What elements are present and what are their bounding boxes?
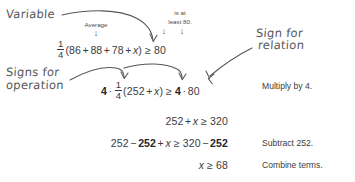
plus-sign-1: + <box>81 44 90 56</box>
relation-sign: ≥ <box>204 159 216 171</box>
value-80: 80 <box>188 85 200 97</box>
plus-sign-3: + <box>124 44 133 56</box>
score-86: 86 <box>69 44 81 56</box>
plus-sign: + <box>156 137 165 149</box>
arrowhead-relation-tail <box>206 71 210 78</box>
subtract-252-left: 252 <box>138 137 156 149</box>
solution-68: 68 <box>216 159 228 171</box>
score-88: 88 <box>90 44 102 56</box>
reason-multiply-by-4: Multiply by 4. <box>262 81 312 91</box>
relation-sign: ≥ <box>171 137 183 149</box>
fraction-denominator: 4 <box>115 90 122 101</box>
dot-operator-1: · <box>107 85 114 97</box>
arrowhead-relation-to-sign <box>208 74 214 84</box>
score-78: 78 <box>112 44 124 56</box>
arrowhead-operation-to-dot2 <box>179 73 186 80</box>
plus-sign-2: + <box>102 44 111 56</box>
variable-x: x <box>165 137 170 149</box>
callout-is-at-least-line2: least 80. <box>162 18 198 25</box>
annotation-variable: Variable <box>6 8 56 21</box>
arrow-operation-to-dot2 <box>124 64 182 78</box>
fraction-one-fourth: 1 4 <box>57 39 64 59</box>
equation-line-4: 252−252+x≥320−252 <box>28 137 228 149</box>
dot-operator-2: · <box>181 85 188 97</box>
relation-sign: ≥ <box>142 44 154 56</box>
lhs-252: 252 <box>111 137 129 149</box>
callout-relation-arrow-icon: ↓ <box>158 27 170 36</box>
reason-subtract-252: Subtract 252. <box>262 138 313 148</box>
callout-eighty-arrow-icon: ↓ <box>176 27 188 36</box>
value-320: 320 <box>210 115 228 127</box>
arrow-relation-to-sign <box>210 48 252 76</box>
equation-line-2: 4· 1 4 (252+x)≥4·80 <box>101 80 200 100</box>
relation-sign: ≥ <box>163 85 175 97</box>
equation-line-5: x≥68 <box>28 159 228 171</box>
annotation-signs-for-operation-line2: operation <box>6 79 65 92</box>
callout-average-arrow-icon: ↓ <box>76 29 116 38</box>
relation-sign: ≥ <box>198 115 210 127</box>
fraction-denominator: 4 <box>57 49 64 60</box>
value-320: 320 <box>183 137 201 149</box>
sum-252: 252 <box>127 85 145 97</box>
minus-sign-right: − <box>201 137 210 149</box>
lhs-252: 252 <box>165 115 183 127</box>
annotation-sign-for-relation-line2: relation <box>258 39 305 52</box>
fraction-one-fourth: 1 4 <box>115 80 122 100</box>
arrowhead-operation-to-dot1 <box>121 72 128 79</box>
subtract-252-right: 252 <box>210 137 228 149</box>
worked-example-figure: Variable Sign for relation Signs for ope… <box>0 0 355 182</box>
equation-line-1: 1 4 (86+88+78+x)≥80 <box>56 39 166 59</box>
plus-sign: + <box>183 115 192 127</box>
fraction-numerator: 1 <box>115 80 122 90</box>
callout-is-at-least-line1: is at <box>162 9 198 16</box>
value-80: 80 <box>154 44 166 56</box>
reason-combine-terms: Combine terms. <box>262 160 323 170</box>
equation-line-3: 252+x≥320 <box>28 115 228 127</box>
minus-sign-left: − <box>129 137 138 149</box>
plus-sign: + <box>145 85 154 97</box>
fraction-numerator: 1 <box>57 39 64 49</box>
